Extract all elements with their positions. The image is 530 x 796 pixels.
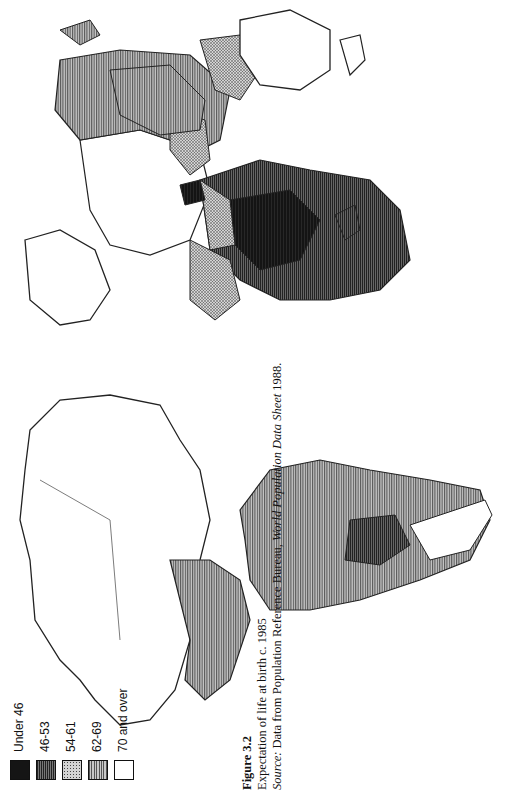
source-text-1: Data from Population Reference Bureau, — [270, 541, 284, 752]
legend-swatch-54-61 — [62, 760, 82, 780]
figure-caption: Figure 3.2 Expectation of life at birth … — [240, 230, 285, 790]
source-label: Source: — [270, 752, 284, 790]
legend-item-under-46 — [10, 760, 30, 780]
figure-label: Figure 3.2 — [240, 230, 255, 790]
region-japan — [60, 20, 100, 45]
legend-item-70-and-over — [114, 760, 134, 780]
legend-label-46-53: 46-53 — [38, 721, 52, 752]
source-text-2: 1988. — [270, 363, 284, 394]
legend-swatch-62-69 — [88, 760, 108, 780]
legend-swatch-under-46 — [10, 760, 30, 780]
legend-label-54-61: 54-61 — [64, 721, 78, 752]
legend-item-54-61 — [62, 760, 82, 780]
legend-swatch-46-53 — [36, 760, 56, 780]
source-title: World Population Data Sheet — [270, 394, 284, 541]
legend: Under 46 46-53 54-61 62-69 70 and over — [10, 640, 160, 790]
figure-title: Expectation of life at birth c. 1985 — [255, 230, 270, 790]
legend-item-62-69 — [88, 760, 108, 780]
region-greenland — [25, 230, 110, 325]
legend-label-under-46: Under 46 — [12, 703, 26, 752]
legend-item-46-53 — [36, 760, 56, 780]
legend-label-62-69: 62-69 — [90, 721, 104, 752]
figure-source: Source: Data from Population Reference B… — [270, 230, 285, 790]
legend-swatch-70-and-over — [114, 760, 134, 780]
region-afghanistan — [180, 180, 205, 205]
book-page: Under 46 46-53 54-61 62-69 70 and over F… — [0, 0, 530, 796]
legend-label-70-and-over: 70 and over — [116, 689, 130, 752]
region-new-zealand — [340, 35, 365, 75]
